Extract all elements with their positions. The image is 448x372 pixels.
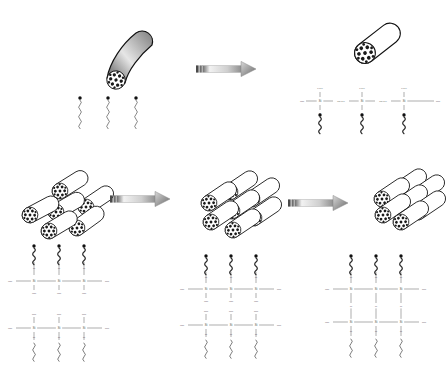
oh-label: OH bbox=[32, 312, 36, 316]
panel-bottom-middle: O O O Si Si Si HO OH HO HO HO OH OH OH bbox=[180, 168, 285, 359]
silanol-chain-upper: O O O Si Si Si HO OH HO HO HO bbox=[180, 254, 281, 302]
si-label: Si bbox=[350, 320, 353, 324]
ho-label: HO bbox=[8, 326, 12, 330]
o-label: O bbox=[205, 332, 207, 336]
ho-label: HO bbox=[8, 279, 12, 283]
o-label: O bbox=[230, 332, 232, 336]
si-label: Si bbox=[205, 287, 208, 291]
si-label: Si bbox=[33, 279, 36, 283]
ho-label: HO bbox=[254, 299, 258, 303]
reaction-arrow-bottom-2 bbox=[288, 195, 348, 210]
o-label: O bbox=[400, 275, 402, 279]
oh-label: OH bbox=[422, 320, 426, 324]
si-label: Si bbox=[400, 320, 403, 324]
ho-label: HO bbox=[325, 287, 329, 291]
o-label: O bbox=[205, 275, 207, 279]
si-label: Si bbox=[350, 287, 353, 291]
o-label: O bbox=[255, 332, 257, 336]
silanol-chain-upper: O O O Si Si Si HO OH HO HO HO bbox=[8, 244, 109, 294]
oh-label: OH bbox=[82, 312, 86, 316]
o-label: O bbox=[350, 329, 352, 333]
o-bridge-label: O bbox=[400, 304, 402, 308]
ho-label: HO bbox=[180, 287, 184, 291]
o-bridge-label: O bbox=[375, 304, 377, 308]
silanol-chain-lower: OH OH OH Si Si Si HO OH O O O bbox=[8, 312, 109, 362]
ho-label: HO bbox=[57, 291, 61, 295]
ho-label: HO bbox=[180, 323, 184, 327]
o-label: O bbox=[58, 335, 60, 339]
ho-label: HO bbox=[32, 291, 36, 295]
si-label: Si bbox=[255, 287, 258, 291]
oh-label: OH bbox=[229, 309, 233, 313]
oh-label: OH bbox=[422, 287, 426, 291]
si-label: Si bbox=[319, 99, 322, 103]
o-label: O bbox=[33, 266, 35, 270]
ch3-label: CH3 bbox=[317, 86, 323, 90]
si-label: Si bbox=[83, 279, 86, 283]
si-label: Si bbox=[205, 323, 208, 327]
aligned-nanotube-bundle bbox=[198, 168, 284, 241]
crosslinked-siloxane-upper: O O O Si Si Si HO OH O O O bbox=[325, 254, 426, 319]
si-label: Si bbox=[230, 287, 233, 291]
panel-bottom-left: O O O Si Si Si HO OH HO HO HO OH OH OH bbox=[8, 168, 117, 362]
o-label: O bbox=[350, 275, 352, 279]
oh-label: OH bbox=[57, 312, 61, 316]
oh-label: OH bbox=[254, 309, 258, 313]
o-label: O bbox=[230, 275, 232, 279]
o-label: O bbox=[375, 275, 377, 279]
och3-bridge-label: OCH3 bbox=[379, 99, 387, 103]
ho-label: HO bbox=[325, 320, 329, 324]
si-label: Si bbox=[375, 287, 378, 291]
si-label: Si bbox=[33, 326, 36, 330]
panel-top-right: Si CH3 O HO Si CH3 O Si CH3 O OH bbox=[300, 19, 440, 134]
oh-label: OH bbox=[105, 279, 109, 283]
ho-label: HO bbox=[300, 99, 304, 103]
silanol-chain-lower: OH OH OH Si Si Si HO OH O O O bbox=[180, 309, 281, 359]
figure-canvas: Si CH3 O HO Si CH3 O Si CH3 O OH bbox=[0, 0, 448, 372]
ho-label: HO bbox=[229, 299, 233, 303]
straight-nanotube bbox=[350, 19, 404, 68]
o-label: O bbox=[83, 335, 85, 339]
loose-nanotube-bundle bbox=[19, 168, 116, 242]
reaction-arrow-bottom-1 bbox=[110, 191, 170, 206]
och3-bridge-label: OCH3 bbox=[337, 99, 345, 103]
o-label: O bbox=[255, 275, 257, 279]
ho-label: HO bbox=[82, 291, 86, 295]
si-label: Si bbox=[361, 99, 364, 103]
si-label: Si bbox=[400, 287, 403, 291]
reaction-arrow-top bbox=[196, 61, 256, 76]
condensed-nanotube-bundle bbox=[371, 166, 448, 233]
si-label: Si bbox=[83, 326, 86, 330]
bent-nanotube bbox=[104, 31, 152, 92]
panel-bottom-right: O O O Si Si Si HO OH O O O bbox=[325, 166, 448, 358]
oh-label: OH bbox=[204, 309, 208, 313]
ch3-label: CH3 bbox=[401, 86, 407, 90]
oh-label: OH bbox=[277, 287, 281, 291]
si-label: Si bbox=[58, 279, 61, 283]
ho-label: HO bbox=[204, 299, 208, 303]
diagram-svg: Si CH3 O HO Si CH3 O Si CH3 O OH bbox=[0, 0, 448, 372]
si-label: Si bbox=[230, 323, 233, 327]
o-bridge-label: O bbox=[350, 304, 352, 308]
panel-top-left bbox=[78, 31, 152, 129]
oh-label: OH bbox=[105, 326, 109, 330]
si-label: Si bbox=[403, 99, 406, 103]
si-label: Si bbox=[58, 326, 61, 330]
o-label: O bbox=[33, 335, 35, 339]
crosslinked-siloxane-lower: Si Si Si HO OH O O O bbox=[325, 319, 426, 358]
o-label: O bbox=[400, 329, 402, 333]
o-label: O bbox=[375, 329, 377, 333]
si-label: Si bbox=[375, 320, 378, 324]
si-label: Si bbox=[255, 323, 258, 327]
free-surfactant-group bbox=[78, 96, 137, 128]
siloxane-chain-linear: Si CH3 O HO Si CH3 O Si CH3 O OH bbox=[300, 86, 440, 134]
o-label: O bbox=[58, 266, 60, 270]
o-label: O bbox=[83, 266, 85, 270]
oh-label: OH bbox=[436, 99, 440, 103]
ch3-label: CH3 bbox=[359, 86, 365, 90]
oh-label: OH bbox=[277, 323, 281, 327]
